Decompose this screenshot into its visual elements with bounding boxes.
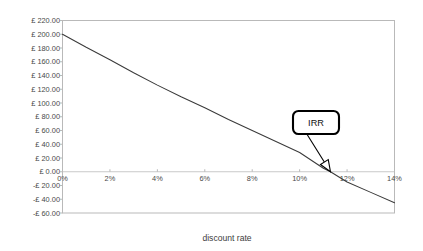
irr-callout-label: IRR [308,118,324,128]
y-axis-tick-label: £ 20.00 [35,154,60,163]
npv-profile-chart: £ 220.00£ 200.00£ 180.00£ 160.00£ 140.00… [0,0,423,251]
x-axis-tick-label: 6% [199,174,210,183]
y-axis-tick-label: £ 60.00 [35,126,60,135]
y-axis-tick-labels: £ 220.00£ 200.00£ 180.00£ 160.00£ 140.00… [31,16,60,218]
y-axis-tick-label: -£ 40.00 [33,195,60,204]
y-axis-tick-label: £ 40.00 [35,140,60,149]
x-axis-tick-label: 14% [387,174,402,183]
y-axis-tick-label: £ 140.00 [31,71,60,80]
y-axis-tick-label: £ 80.00 [35,112,60,121]
chart-canvas: £ 220.00£ 200.00£ 180.00£ 160.00£ 140.00… [0,0,423,251]
y-axis-tick-label: -£ 60.00 [33,209,60,218]
y-axis-tick-label: £ 160.00 [31,57,60,66]
x-axis-title: discount rate [202,233,251,243]
x-axis-tick-label: 0% [57,174,68,183]
y-axis-tick-label: £ 220.00 [31,16,60,25]
y-axis-tick-label: -£ 20.00 [33,181,60,190]
y-axis-tick-label: £ 120.00 [31,85,60,94]
y-axis-tick-label: £ 100.00 [31,99,60,108]
x-axis-tick-label: 10% [292,174,307,183]
x-axis-tick-label: 8% [247,174,258,183]
x-axis-tick-label: 4% [152,174,163,183]
x-axis-tick-label: 2% [105,174,116,183]
y-axis-tick-label: £ 200.00 [31,30,60,39]
y-axis-tick-label: £ 180.00 [31,44,60,53]
